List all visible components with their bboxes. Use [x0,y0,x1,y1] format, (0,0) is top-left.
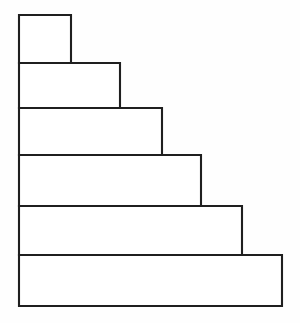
steps-group [19,15,282,306]
staircase-figure [0,0,300,323]
step-3 [19,108,162,155]
staircase-drawing [0,0,300,323]
step-2 [19,63,120,108]
step-5 [19,206,242,255]
step-6 [19,255,282,306]
step-4 [19,155,201,206]
step-1 [19,15,71,63]
